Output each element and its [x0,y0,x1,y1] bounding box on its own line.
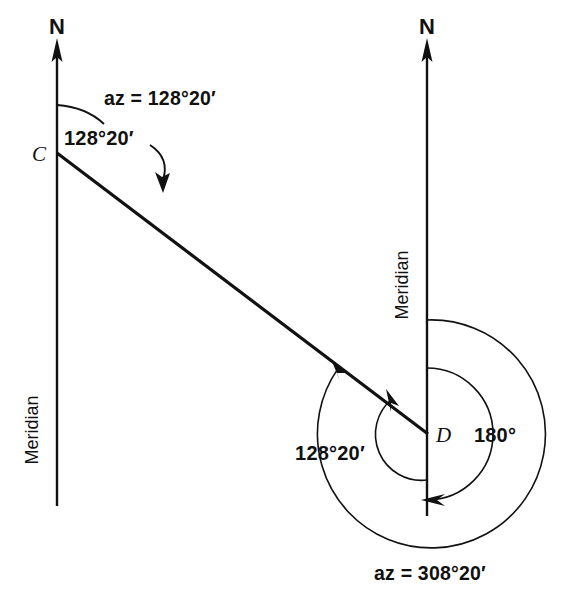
label-forward-azimuth: az = 128°20′ [104,87,216,109]
label-180-degrees: 180° [474,424,516,446]
label-forward-angle: 128°20′ [64,127,134,149]
arc-arrow-head-180 [421,494,445,506]
meridian-label-d: Meridian [392,250,412,319]
arc-interior-128 [375,399,427,480]
callout-arrow-head-forward-angle [155,172,170,193]
leader-arc-az-forward [57,105,104,124]
line-c-to-d [57,153,428,434]
label-interior-angle-at-d: 128°20′ [295,442,365,464]
meridian-label-c: Meridian [22,395,42,464]
diagram-canvas: N N C D az = 128°20′ 128°20′ 128°20′ 180… [0,0,574,600]
station-label-d: D [435,423,451,447]
north-label-c: N [49,14,65,39]
station-label-c: C [32,142,47,166]
label-back-azimuth: az = 308°20′ [374,562,486,584]
azimuth-diagram: N N C D az = 128°20′ 128°20′ 128°20′ 180… [0,0,574,600]
north-label-d: N [419,14,435,39]
